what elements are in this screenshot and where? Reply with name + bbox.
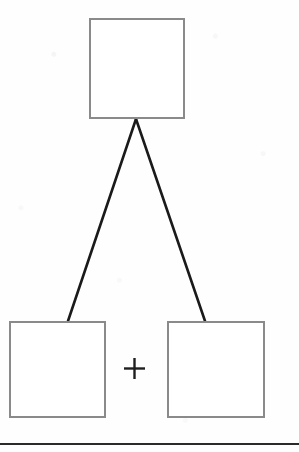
plus-operator-icon [124, 358, 145, 379]
branch-line-right [136, 119, 205, 321]
branch-line-left [68, 119, 136, 321]
diagram-canvas [0, 0, 299, 452]
page-edge-rule [0, 443, 299, 445]
part-box-left[interactable] [9, 321, 106, 418]
whole-box[interactable] [89, 18, 185, 119]
part-box-right[interactable] [167, 321, 265, 418]
